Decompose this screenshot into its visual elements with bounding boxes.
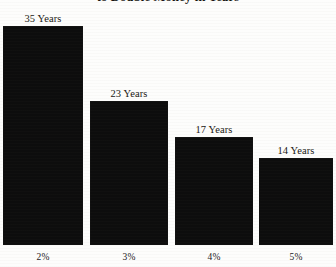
plot-area: 35 Years 2% 23 Years 3% 17 Years 4% 14 Y… — [0, 0, 336, 267]
bar-value-label: 23 Years — [76, 88, 182, 99]
bar-value-label: 17 Years — [161, 124, 267, 135]
bar — [90, 101, 168, 245]
bar — [259, 158, 333, 245]
bar-value-label: 14 Years — [245, 145, 336, 156]
bar-category-label: 5% — [245, 252, 336, 263]
bar — [175, 137, 253, 245]
bar-group-1: 35 Years 2% — [3, 0, 83, 267]
bar-group-3: 17 Years 4% — [175, 0, 253, 267]
chart-container: to Double Money in Years 35 Years 2% 23 … — [0, 0, 336, 267]
bar-group-2: 23 Years 3% — [90, 0, 168, 267]
bar-value-label: 35 Years — [0, 13, 97, 24]
bar — [3, 26, 83, 245]
bar-group-4: 14 Years 5% — [259, 0, 333, 267]
